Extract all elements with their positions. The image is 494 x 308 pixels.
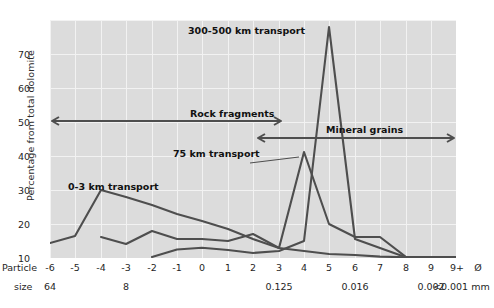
y-tick-30: 30 <box>0 190 30 201</box>
x-tick-mm-8: 8 <box>96 281 156 292</box>
annotation-mineral-grains: Mineral grains <box>326 124 403 135</box>
leader-line-75km <box>50 20 456 258</box>
annotation-0-3-km-transport: 0-3 km transport <box>68 181 159 192</box>
x-tick-mm-64: 64 <box>20 281 80 292</box>
annotation-300-500-km-transport: 300-500 km transport <box>188 25 305 36</box>
x-tick-mm-0016: 0.016 <box>325 281 385 292</box>
y-tick-20: 20 <box>0 224 30 235</box>
x-tick-mm-0125: 0.125 <box>249 281 309 292</box>
x-tick-phi-symbol: Ø <box>463 262 493 273</box>
plot-area: Rock fragments Mineral grains 300-500 km… <box>50 20 456 258</box>
x-axis-title-particle: Particle <box>2 262 37 273</box>
y-tick-70: 70 <box>0 54 30 65</box>
annotation-75-km-transport: 75 km transport <box>173 148 260 159</box>
y-tick-60: 60 <box>0 88 30 99</box>
annotation-rock-fragments: Rock fragments <box>190 108 274 119</box>
y-tick-40: 40 <box>0 156 30 167</box>
y-tick-50: 50 <box>0 122 30 133</box>
x-tick-mm-lt0001: <0.001 mm <box>433 281 494 292</box>
